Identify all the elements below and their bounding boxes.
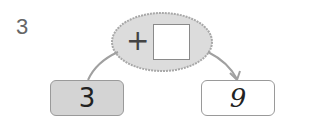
result-value-box: 9: [201, 80, 275, 116]
left-connector-arc: [88, 52, 118, 80]
plus-operator: +: [126, 27, 149, 55]
answer-input-box[interactable]: [153, 24, 190, 60]
start-value-box: 3: [50, 80, 124, 116]
